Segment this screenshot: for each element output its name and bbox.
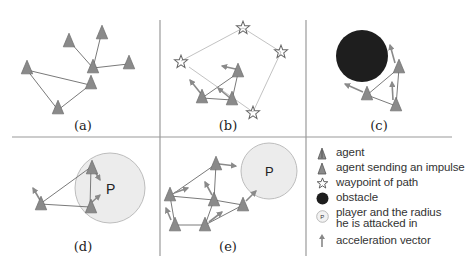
caption-e: (e) [208,239,248,254]
player-label: P [265,164,274,179]
agent-links [170,164,243,225]
waypoint-star-icon [236,21,249,33]
caption-a: (a) [63,118,103,133]
player-radius-icon: P [315,209,329,223]
agent-impulse-icon [315,161,329,175]
caption-c: (c) [359,118,399,133]
agent-links [27,35,128,110]
agents [21,25,134,114]
player-label: P [106,181,115,197]
agent-icon [210,156,221,170]
waypoint-star-icon [246,106,259,118]
agent-icon [123,55,134,69]
caption-b: (b) [208,118,248,133]
agent-icon [87,59,98,73]
panel-c [336,30,405,111]
waypoint-star-icon [315,176,329,190]
agent-icon [226,91,237,105]
legend-item-waypoint: waypoint of path [315,176,465,191]
panel-e: P [164,143,297,231]
agent-icon [85,75,96,89]
caption-d: (d) [63,239,103,254]
legend-item-obstacle: obstacle [315,191,465,206]
legend-label: player and the radius he is attacked in [336,207,441,229]
legend-label: waypoint of path [336,177,418,188]
agent-icon [35,196,46,210]
obstacle-icon [336,30,388,82]
obstacle-icon [315,191,329,205]
agent-icon [21,60,32,74]
legend-item-agent: agent [315,146,465,161]
agent-icon [63,33,74,47]
legend-label: agent sending an impulse [336,162,465,173]
acceleration-vector-icon [315,234,329,248]
agent-icon [361,86,372,100]
agent-icon [315,146,329,160]
agent-icon [199,217,210,231]
legend-label: agent [336,147,364,158]
agent-icon [96,25,107,39]
waypoint-star-icon [274,45,287,57]
waypoint-star-icon [174,55,187,67]
legend-label: acceleration vector [336,235,431,246]
legend-item-acceleration: acceleration vector [315,234,465,249]
panel-a [21,25,134,114]
agent-impulse-icon [164,187,175,201]
panel-d: P [33,153,145,223]
panel-b [174,21,287,118]
legend-item-agent-impulse: agent sending an impulse [315,161,465,176]
agents [196,63,243,105]
agent-icon [208,192,219,206]
legend-label: obstacle [336,192,378,203]
agent-impulse-icon [232,63,243,77]
legend-item-player: P player and the radius he is attacked i… [315,206,465,234]
svg-text:P: P [320,214,324,220]
legend: agent agent sending an impulse waypoint … [315,146,465,249]
